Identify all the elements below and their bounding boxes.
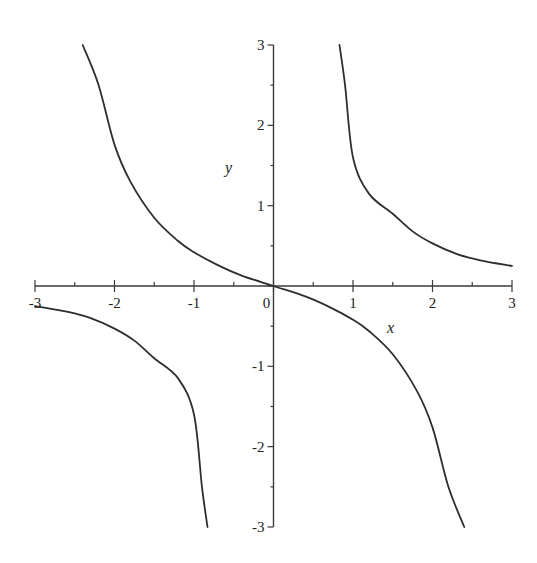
y-tick-label: 2 [257, 117, 265, 133]
y-tick-label: 1 [257, 198, 265, 214]
curve-upper-right-branch [339, 45, 512, 266]
x-tick-label: 1 [349, 295, 357, 311]
x-axis-tick-labels: -3-2-10123 [29, 295, 516, 311]
y-tick-label: -1 [252, 358, 265, 374]
x-tick-label: 3 [508, 295, 516, 311]
y-tick-label: 3 [257, 37, 265, 53]
x-axis-label: x [386, 319, 394, 336]
y-tick-label: -2 [252, 439, 265, 455]
y-tick-label: -3 [252, 519, 265, 535]
x-tick-label: 0 [263, 295, 271, 311]
x-tick-label: -3 [29, 295, 42, 311]
x-tick-label: -2 [108, 295, 121, 311]
curve-lower-left-branch [35, 306, 208, 527]
y-axis-label: y [223, 159, 233, 177]
x-tick-label: -1 [188, 295, 201, 311]
plot-area: -3-2-10123 -3-2-1123 x y [0, 0, 537, 563]
x-tick-label: 2 [429, 295, 437, 311]
